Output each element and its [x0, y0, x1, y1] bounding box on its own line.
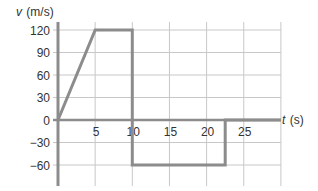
x-axis-label: t (s): [282, 113, 304, 127]
x-axis-variable: t: [282, 113, 286, 127]
x-tick-label: 5: [93, 125, 100, 139]
y-tick-label: −30: [30, 136, 51, 150]
y-axis-variable: v: [16, 5, 23, 19]
x-tick-label: 20: [201, 125, 215, 139]
x-tick-label: 15: [164, 125, 178, 139]
y-axis-label: v (m/s): [16, 5, 54, 19]
x-axis-unit: (s): [290, 113, 304, 127]
y-tick-label: 90: [37, 46, 51, 60]
y-axis-unit: (m/s): [26, 5, 53, 19]
velocity-time-chart: 1209060300−30−60510152025 v (m/s) t (s): [0, 0, 318, 191]
y-tick-label: 30: [37, 91, 51, 105]
y-tick-label: 120: [30, 24, 50, 38]
y-tick-label: 60: [37, 69, 51, 83]
x-tick-label: 25: [238, 125, 252, 139]
y-tick-label: −60: [30, 159, 51, 173]
y-tick-label: 0: [43, 114, 50, 128]
